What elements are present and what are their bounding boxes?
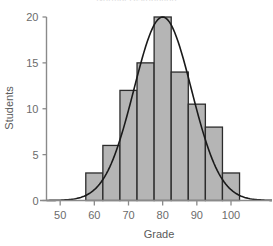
x-axis-tick-label: 90 (191, 209, 203, 221)
x-axis-tick-label: 80 (157, 209, 169, 221)
histogram-bar (154, 17, 171, 201)
y-axis-tick-label: 0 (32, 195, 38, 207)
y-axis-tick-label: 10 (26, 103, 38, 115)
x-axis-tick-label: 70 (122, 209, 134, 221)
bars-group (86, 17, 240, 201)
histogram-bar (188, 104, 205, 200)
histogram-bar (137, 63, 154, 201)
histogram-bar (171, 72, 188, 200)
histogram-bar (103, 145, 120, 200)
histogram-bar (120, 90, 137, 200)
histogram-chart: Normal Distribution 05101520 50607080901… (0, 0, 273, 246)
x-axis-tick-label: 50 (54, 209, 66, 221)
x-axis-tick-label: 60 (88, 209, 100, 221)
y-axis-tick-label: 15 (26, 57, 38, 69)
x-axis-ticks: 5060708090100 (54, 201, 240, 221)
y-axis-ticks: 05101520 (26, 11, 46, 207)
histogram-bar (86, 173, 103, 201)
histogram-bar (222, 173, 239, 201)
y-axis-title: Students (3, 86, 15, 130)
x-axis-tick-label: 100 (222, 209, 240, 221)
chart-plot-area: 05101520 5060708090100 Grade Students (0, 0, 273, 246)
y-axis-tick-label: 20 (26, 11, 38, 23)
y-axis-tick-label: 5 (32, 149, 38, 161)
x-axis-title: Grade (144, 228, 175, 240)
